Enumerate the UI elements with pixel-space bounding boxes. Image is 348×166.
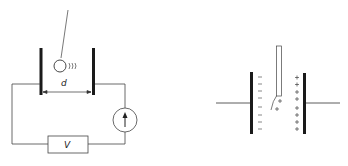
strip-deflected-tip (271, 96, 277, 110)
pendulum-string (61, 10, 68, 58)
voltage-label: V (64, 140, 71, 150)
left-figure: d V (12, 10, 137, 153)
charged-strip (277, 46, 282, 96)
diagram-canvas: d V (0, 0, 348, 166)
left-plate (40, 48, 43, 95)
right-plate (92, 48, 95, 95)
distance-label: d (61, 78, 67, 88)
pendulum-ball (54, 60, 66, 72)
negative-plate (250, 72, 253, 134)
motion-arcs-icon (69, 63, 76, 69)
right-figure (216, 46, 340, 134)
negative-charges (258, 77, 262, 129)
positive-plate (303, 73, 306, 134)
current-meter-icon (113, 108, 137, 132)
distance-arrow (43, 91, 91, 94)
circuit-wires (12, 84, 125, 144)
